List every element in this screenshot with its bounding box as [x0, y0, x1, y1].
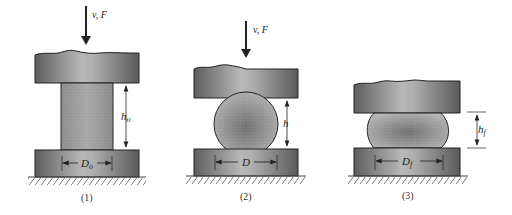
- diameter-label: D: [241, 156, 250, 168]
- ground-hatch: [348, 176, 468, 184]
- height-label: hf: [478, 123, 488, 137]
- panel-caption: (1): [81, 192, 93, 204]
- force-label: v, F: [253, 24, 269, 35]
- panel-caption: (2): [240, 191, 252, 203]
- panel-2-sphere: v, F h D (2): [186, 21, 306, 203]
- forging-diagram: v, F ho Do (1): [0, 0, 512, 215]
- ground-hatch: [28, 177, 146, 185]
- force-arrow-icon: [81, 6, 91, 45]
- ground-hatch: [186, 176, 306, 184]
- force-label: v, F: [92, 9, 108, 20]
- panel-1-cylinder: v, F ho Do (1): [28, 6, 146, 204]
- top-platen: [35, 50, 139, 83]
- force-arrow-icon: [241, 21, 251, 58]
- panel-3-barrel: hf Df (3): [348, 80, 488, 202]
- height-label: h: [283, 117, 289, 129]
- panel-caption: (3): [402, 190, 414, 202]
- top-platen: [354, 80, 460, 113]
- height-label: ho: [121, 110, 131, 124]
